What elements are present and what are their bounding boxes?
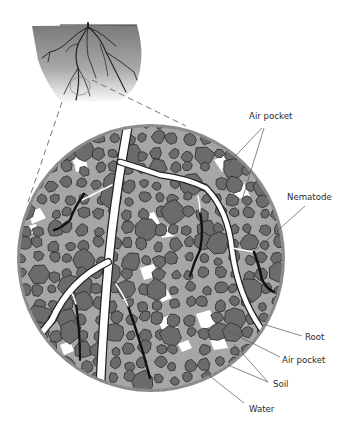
soil-particle xyxy=(109,373,118,383)
soil-particle xyxy=(185,253,193,261)
magnified-soil-circle xyxy=(15,116,286,396)
soil-particle xyxy=(123,237,132,247)
soil-particle xyxy=(156,192,164,202)
soil-particle xyxy=(63,254,72,262)
soil-particle xyxy=(200,253,209,262)
soil-particle xyxy=(151,311,163,324)
soil-particle xyxy=(110,133,120,142)
soil-cross-section-diagram: Air pocket Nematode Root Air pocket Soil… xyxy=(0,0,355,438)
leader-water xyxy=(206,373,244,403)
soil-particle xyxy=(78,207,90,218)
label-air-pocket-top: Air pocket xyxy=(249,111,293,121)
soil-particle xyxy=(157,345,167,354)
soil-particle xyxy=(66,243,76,251)
soil-particle xyxy=(170,299,180,308)
soil-particle xyxy=(152,300,162,310)
soil-particle xyxy=(52,210,60,218)
soil-particle xyxy=(167,314,179,327)
leader-soil-a xyxy=(234,344,268,382)
soil-particle xyxy=(182,162,192,171)
soil-particle xyxy=(261,209,269,218)
label-air-pocket-bottom: Air pocket xyxy=(282,355,326,365)
soil-particle xyxy=(108,149,117,157)
soil-particle xyxy=(48,285,56,293)
soil-particle xyxy=(182,372,192,382)
soil-particle xyxy=(136,237,147,250)
label-water: Water xyxy=(249,404,275,414)
soil-particle xyxy=(215,282,229,293)
soil-particle xyxy=(182,226,192,236)
soil-particle xyxy=(155,223,166,235)
soil-particle xyxy=(214,258,223,266)
soil-particle xyxy=(198,267,208,278)
soil-particle xyxy=(142,256,151,265)
leader-root xyxy=(266,325,302,336)
label-soil: Soil xyxy=(273,379,289,389)
soil-particle xyxy=(216,177,228,190)
soil-particle xyxy=(65,196,75,205)
soil-particle xyxy=(32,227,43,237)
label-nematode: Nematode xyxy=(287,192,332,202)
soil-particle xyxy=(50,331,63,343)
label-root: Root xyxy=(305,332,325,342)
leader-soil-b xyxy=(228,365,268,382)
soil-particle xyxy=(259,303,267,312)
soil-particle xyxy=(170,287,178,295)
soil-particle xyxy=(168,362,176,371)
zoom-guide-right xyxy=(92,80,186,126)
soil-particle xyxy=(138,302,148,312)
soil-particle xyxy=(215,300,225,312)
